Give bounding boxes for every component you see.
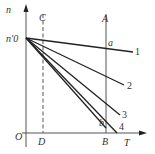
label-c: C [39,12,46,23]
diagram-canvas: n T O n'0 C D A B 1 2 3 4 a b [0,0,155,154]
line-4b [26,38,106,128]
label-d: D [37,136,46,147]
y-intercept-label: n'0 [6,33,18,44]
line-2-label: 2 [127,80,132,91]
x-axis-arrow-icon [139,131,147,136]
point-a-label: a [108,37,113,48]
x-axis-label: T [124,137,131,148]
origin-label: O [15,131,22,142]
point-b-label: b [99,117,104,128]
label-b-bottom: B [102,136,108,147]
y-axis-label: n [6,4,11,15]
line-4-label: 4 [119,121,124,132]
label-a-top: A [101,13,109,24]
line-1-label: 1 [135,46,140,57]
line-3-label: 3 [122,109,127,120]
y-axis-arrow-icon [24,4,29,12]
